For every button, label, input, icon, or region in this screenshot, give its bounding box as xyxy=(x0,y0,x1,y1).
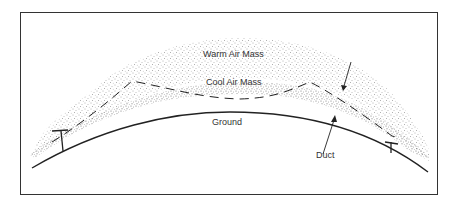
ground-label: Ground xyxy=(212,117,242,127)
duct-arrow xyxy=(323,115,337,154)
duct-label: Duct xyxy=(316,150,335,160)
cool-air-mass-label: Cool Air Mass xyxy=(206,77,262,87)
duct-diagram: Warm Air Mass Cool Air Mass Ground Duct xyxy=(0,0,461,205)
warm-air-mass-label: Warm Air Mass xyxy=(203,49,264,59)
